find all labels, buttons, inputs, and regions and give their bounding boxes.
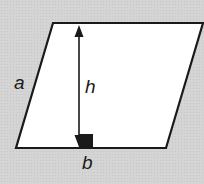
side-label-a: a xyxy=(14,72,25,93)
height-label-h: h xyxy=(85,76,96,97)
diagram-canvas: a h b xyxy=(0,0,204,184)
parallelogram-shape xyxy=(16,23,203,148)
parallelogram-diagram: a h b xyxy=(0,0,204,184)
right-angle-marker-icon xyxy=(79,134,93,147)
base-label-b: b xyxy=(82,152,93,173)
